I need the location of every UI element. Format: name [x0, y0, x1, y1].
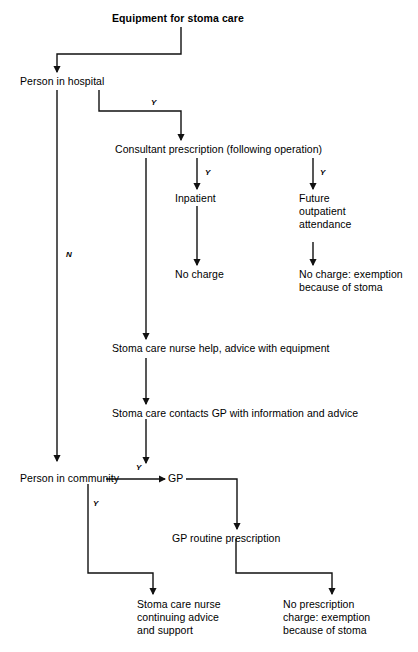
node-inpatient: Inpatient [175, 192, 216, 205]
edge-gp-to-routine-prescription [186, 479, 237, 529]
edge-label-hospital-to-consultant: Y [151, 98, 156, 107]
node-gp-routine-prescription: GP routine prescription [172, 532, 280, 545]
node-person-in-community: Person in community [20, 472, 119, 485]
node-no-prescription-charge: No prescription charge: exemption becaus… [283, 598, 370, 636]
node-stoma-care-nurse-help: Stoma care nurse help, advice with equip… [112, 342, 330, 355]
edge-label-community-to-gp: Y [136, 463, 141, 472]
node-future-outpatient-attendance: Future outpatient attendance [299, 192, 351, 230]
edge-routine-prescription-to-no-charge [236, 539, 332, 594]
node-stoma-care-contacts-gp: Stoma care contacts GP with information … [112, 407, 358, 420]
node-stoma-care-nurse-continuing: Stoma care nurse continuing advice and s… [137, 598, 221, 636]
node-title: Equipment for stoma care [112, 12, 244, 25]
node-gp: GP [168, 472, 183, 485]
node-no-charge-exemption: No charge: exemption because of stoma [299, 268, 403, 294]
edge-label-community-to-nurse: Y [93, 499, 98, 508]
flowchart-connectors [0, 0, 418, 652]
edge-label-hospital-to-community: N [66, 250, 72, 259]
node-person-in-hospital: Person in hospital [20, 75, 104, 88]
edge-hospital-to-consultant [99, 90, 181, 140]
edge-title-to-hospital [57, 27, 181, 72]
edge-label-consultant-to-outpatient: Y [320, 168, 325, 177]
node-no-charge: No charge [175, 268, 224, 281]
edge-label-consultant-to-inpatient: Y [205, 168, 210, 177]
flowchart-canvas: Equipment for stoma care Person in hospi… [0, 0, 418, 652]
node-consultant-prescription: Consultant prescription (following opera… [115, 143, 322, 156]
